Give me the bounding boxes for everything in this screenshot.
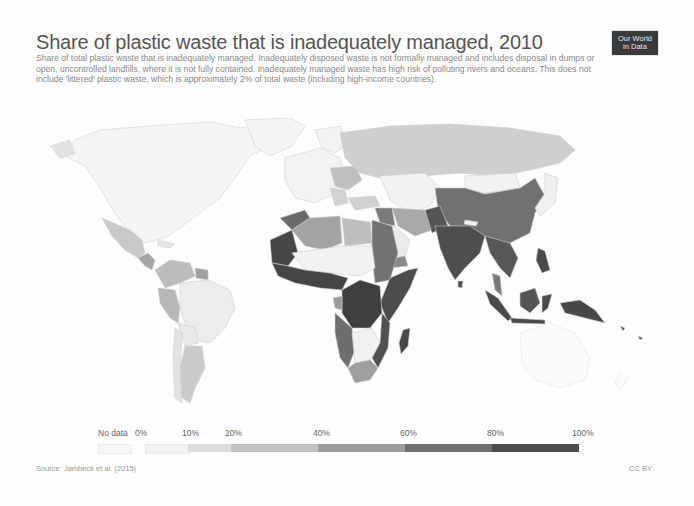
legend-tick-10: 10% [182, 428, 199, 438]
region-southeast-asia [485, 236, 518, 278]
region-india [435, 226, 485, 280]
region-libya [342, 218, 372, 246]
legend: No data 0% 10% 20% 40% 60% 80% 100% [0, 428, 694, 458]
region-russia [340, 124, 575, 178]
region-malay-peninsula [492, 273, 502, 296]
region-borneo [520, 288, 540, 313]
owid-logo[interactable]: Our World in Data [612, 31, 658, 55]
region-java [510, 318, 545, 324]
region-australia [520, 323, 590, 388]
legend-label-no-data: No data [98, 428, 128, 438]
region-gabon [333, 296, 342, 310]
world-map [30, 118, 690, 418]
legend-tick-80: 80% [487, 428, 504, 438]
region-peru [158, 288, 180, 323]
legend-tick-20: 20% [225, 428, 242, 438]
chart-frame: Share of plastic waste that is inadequat… [0, 0, 694, 506]
license-label[interactable]: CC BY [629, 464, 652, 473]
region-pacific-islands [620, 326, 643, 340]
legend-swatch-60-80[interactable] [405, 444, 492, 452]
region-madagascar [399, 328, 410, 354]
region-new-zealand [615, 373, 628, 390]
region-west-africa-coast [270, 230, 298, 266]
region-kazakhstan [380, 173, 440, 213]
legend-tick-40: 40% [313, 428, 330, 438]
legend-swatch-0-10[interactable] [145, 444, 190, 454]
legend-tick-0: 0% [135, 428, 147, 438]
legend-swatch-10-20[interactable] [188, 444, 231, 452]
logo-line-2: in Data [612, 43, 658, 52]
region-sumatra [485, 290, 512, 321]
region-sulawesi [542, 294, 552, 313]
chart-title: Share of plastic waste that is inadequat… [36, 31, 543, 54]
region-guyanas [195, 268, 208, 280]
legend-tick-100: 100% [572, 428, 594, 438]
legend-tick-60: 60% [400, 428, 417, 438]
region-north-america [65, 122, 280, 243]
region-argentina [180, 346, 205, 403]
region-central-africa [342, 280, 382, 328]
region-papua [560, 300, 605, 323]
region-chile [173, 328, 182, 403]
chart-subtitle: Share of total plastic waste that is ina… [36, 53, 596, 85]
legend-swatch-no-data[interactable] [98, 444, 132, 454]
region-balkans [330, 188, 348, 206]
source-note[interactable]: Source: Jambeck et al. (2015) [36, 464, 136, 473]
legend-swatch-20-40[interactable] [231, 444, 318, 452]
region-south-africa [348, 360, 378, 383]
region-alaska [50, 140, 75, 158]
region-caribbean [158, 240, 175, 248]
legend-swatch-40-60[interactable] [318, 444, 405, 452]
legend-swatch-80-100[interactable] [492, 444, 579, 452]
region-sri-lanka [458, 281, 463, 288]
region-philippines [536, 248, 550, 273]
